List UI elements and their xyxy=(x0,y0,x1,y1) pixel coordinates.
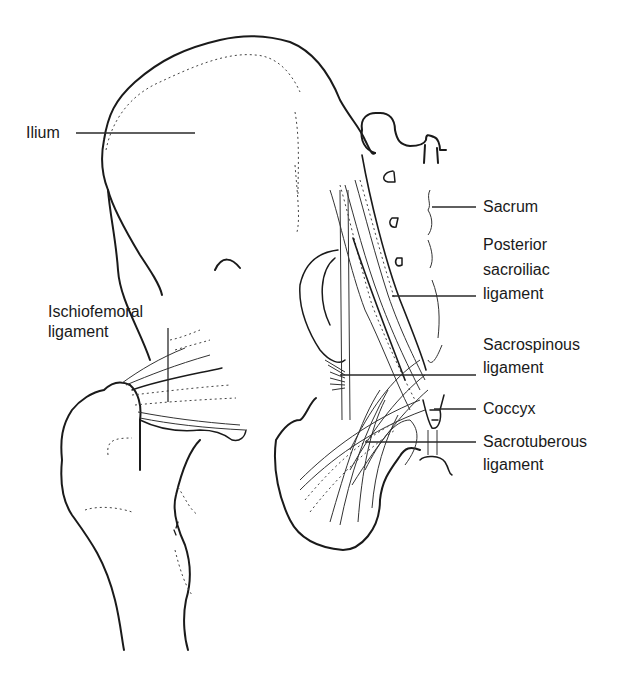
sacral-foramen-1 xyxy=(384,171,395,182)
label-sacrum: Sacrum xyxy=(483,197,538,217)
ischial-tuberosity-edge xyxy=(420,456,452,475)
label-ilium: Ilium xyxy=(26,123,60,143)
sacrotuberous-ligament xyxy=(300,390,425,525)
sacrum-outline xyxy=(362,113,446,163)
label-sacrospinous-line1: Sacrospinous xyxy=(483,335,580,355)
femur-dotted-2 xyxy=(85,507,132,512)
label-posterior-sacroiliac-line1: Posterior xyxy=(483,235,547,255)
femur-dotted-3 xyxy=(178,487,198,515)
label-sacrotuberous-line1: Sacrotuberous xyxy=(483,432,587,452)
label-sacrotuberous-line2: ligament xyxy=(483,455,543,475)
label-coccyx: Coccyx xyxy=(483,399,535,419)
label-ischiofemoral-line2: ligament xyxy=(48,322,108,342)
femoral-neck-edge xyxy=(140,420,246,440)
sacral-foramen-3 xyxy=(396,258,402,266)
label-ischiofemoral-line1: Ischiofemoral xyxy=(48,302,143,322)
coccyx-outline xyxy=(423,395,444,428)
femur-dotted-1 xyxy=(108,438,132,455)
sacral-foramen-2 xyxy=(390,218,398,227)
sacrum-lateral-edge xyxy=(428,190,442,362)
ilium-inner-dotted xyxy=(295,112,298,232)
iliac-crest-dotted xyxy=(106,55,300,150)
ischial-spine xyxy=(300,250,345,362)
ilium-lower-edge xyxy=(108,190,162,295)
label-sacrospinous-line2: ligament xyxy=(483,358,543,378)
femur-outline xyxy=(61,382,200,650)
label-posterior-sacroiliac-line2: sacroiliac xyxy=(483,260,550,280)
femur-mark xyxy=(174,522,178,535)
label-posterior-sacroiliac-line3: ligament xyxy=(483,284,543,304)
ischium-vertical xyxy=(340,190,350,420)
